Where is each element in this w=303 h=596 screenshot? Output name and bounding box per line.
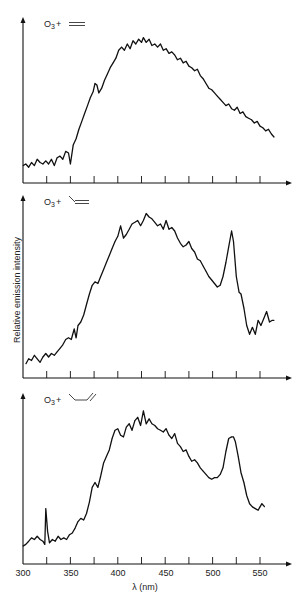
data-point — [260, 507, 261, 508]
data-point — [90, 97, 91, 98]
data-point — [83, 520, 84, 521]
data-point — [120, 435, 121, 436]
data-point — [98, 487, 99, 488]
data-point — [226, 451, 227, 452]
data-point — [106, 262, 107, 263]
data-point — [69, 534, 70, 535]
data-point — [260, 126, 261, 127]
data-point — [223, 102, 224, 103]
data-point — [189, 456, 190, 457]
data-point — [152, 45, 153, 46]
data-point — [177, 238, 178, 239]
data-point — [78, 521, 79, 522]
panel-label-subscript: 3 — [51, 399, 55, 406]
data-point — [68, 338, 69, 339]
data-point — [177, 443, 178, 444]
panel-label-plus: + — [56, 395, 61, 405]
data-point — [166, 48, 167, 49]
data-point — [31, 360, 32, 361]
data-point — [100, 276, 101, 277]
data-point — [93, 91, 94, 92]
data-point — [169, 435, 170, 436]
data-point — [191, 248, 192, 249]
panel-2: O3+ — [21, 195, 293, 381]
data-point — [23, 546, 24, 547]
data-point — [217, 477, 218, 478]
data-point — [83, 315, 84, 316]
data-point — [76, 338, 77, 339]
x-tick-label-350: 350 — [63, 568, 78, 578]
data-point — [214, 93, 215, 94]
data-point — [262, 503, 263, 504]
data-point — [43, 357, 44, 358]
data-point — [118, 50, 119, 51]
data-point — [246, 495, 247, 496]
data-point — [249, 334, 250, 335]
data-point — [206, 271, 207, 272]
data-point — [209, 477, 210, 478]
data-point — [126, 427, 127, 428]
data-point — [186, 245, 187, 246]
data-point — [146, 424, 147, 425]
data-point — [220, 285, 221, 286]
data-point — [263, 127, 264, 128]
y-axis-label: Relative emission intensity — [12, 236, 22, 343]
data-point — [31, 162, 32, 163]
data-point — [57, 352, 58, 353]
data-point — [243, 112, 244, 113]
data-point — [110, 67, 111, 68]
data-point — [180, 243, 181, 244]
data-point — [136, 44, 137, 45]
chart-figure: O3+O3+O3+ Relative emission intensity 30… — [0, 0, 303, 596]
panel-label-plus: + — [56, 19, 61, 29]
data-point — [138, 39, 139, 40]
data-point — [255, 508, 256, 509]
data-point — [238, 456, 239, 457]
data-point — [172, 438, 173, 439]
data-point — [54, 355, 55, 356]
data-point — [98, 283, 99, 284]
data-point — [26, 364, 27, 365]
data-point — [183, 63, 184, 64]
data-point — [265, 131, 266, 132]
data-point — [89, 294, 90, 295]
data-point — [76, 139, 77, 140]
data-point — [95, 83, 96, 84]
data-point — [57, 157, 58, 158]
data-point — [214, 283, 215, 284]
data-point — [132, 430, 133, 431]
data-point — [26, 544, 27, 545]
data-point — [163, 50, 164, 51]
data-point — [28, 167, 29, 168]
data-point — [40, 539, 41, 540]
data-point — [40, 162, 41, 163]
data-point — [54, 165, 55, 166]
data-point — [264, 507, 265, 508]
data-point — [157, 47, 158, 48]
data-point — [48, 357, 49, 358]
data-point — [84, 113, 85, 114]
data-point — [37, 359, 38, 360]
x-tick-label-550: 550 — [252, 568, 267, 578]
panel-label-subscript: 3 — [51, 201, 55, 208]
data-point — [246, 325, 247, 326]
data-point — [143, 411, 144, 412]
data-point — [79, 129, 80, 130]
data-point — [246, 116, 247, 117]
data-point — [266, 311, 267, 312]
data-point — [40, 362, 41, 363]
data-point — [203, 266, 204, 267]
data-point — [169, 53, 170, 54]
data-point — [234, 110, 235, 111]
data-point — [143, 220, 144, 221]
panel-label-plus: + — [56, 197, 61, 207]
data-point — [254, 123, 255, 124]
data-point — [34, 165, 35, 166]
data-point — [46, 353, 47, 354]
data-point — [223, 276, 224, 277]
data-point — [160, 430, 161, 431]
data-point — [126, 234, 127, 235]
data-point — [211, 479, 212, 480]
data-point — [99, 93, 100, 94]
data-point — [37, 159, 38, 160]
